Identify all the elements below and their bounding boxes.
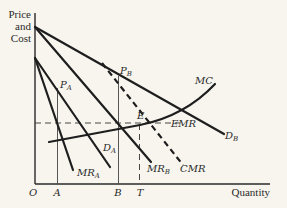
y-axis-label-line2: and (15, 20, 31, 32)
y-axis-label-line1: Price (8, 8, 31, 20)
price-discrimination-diagram: Price and Cost Quantity O A B T E PA PB … (0, 0, 287, 208)
demand-curve-A (35, 58, 110, 167)
label-CMR: CMR (180, 163, 206, 174)
label-MRA: MRA (76, 167, 100, 180)
point-E-label: E (136, 110, 145, 121)
y-axis-label-line3: Cost (11, 32, 31, 44)
tick-label-B: B (113, 187, 121, 198)
point-PA-label: PA (59, 79, 72, 92)
label-EMR: EMR (170, 118, 197, 129)
tick-label-T: T (137, 187, 145, 198)
label-DB: DB (224, 130, 238, 143)
label-MC: MC (194, 75, 213, 86)
label-MRB: MRB (146, 163, 170, 176)
tick-label-A: A (52, 187, 60, 198)
x-axis-label: Quantity (232, 186, 271, 198)
origin-label: O (29, 187, 37, 198)
marginal-revenue-curve-A (35, 58, 73, 170)
label-DA: DA (102, 142, 116, 155)
